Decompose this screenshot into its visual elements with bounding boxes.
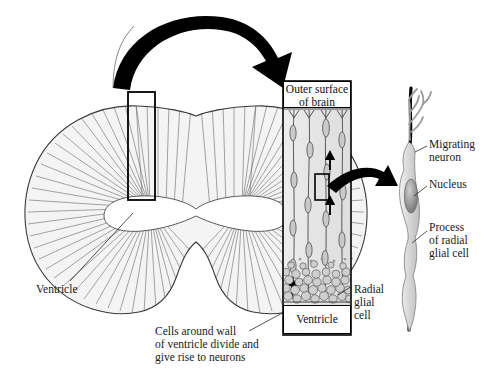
label-outer-surface-of-brain: Outer surface of brain [283, 81, 351, 108]
neuron-leading-branches [409, 89, 431, 140]
label-brain-ventricle: Ventricle [36, 283, 78, 296]
migrating-neuron-leader-line [415, 146, 427, 152]
label-process-of-radial-glial-cell: Process of radial glial cell [429, 221, 469, 261]
label-radial-glial-cell: Radial glial cell [354, 283, 384, 323]
arrow-brain-to-column [113, 16, 292, 90]
label-nucleus: Nucleus [429, 178, 467, 191]
label-migrating-neuron: Migrating neuron [429, 138, 475, 164]
label-column-ventricle: Ventricle [283, 305, 351, 334]
migrating-neuron-soma [400, 142, 420, 331]
neuron-nucleus [404, 179, 417, 213]
neuron-detail-panel [400, 88, 431, 331]
caption-cells-around-ventricle: Cells around wall of ventricle divide an… [155, 325, 259, 365]
figure-root: Outer surface of brain Ventricle Ventric… [0, 0, 493, 387]
